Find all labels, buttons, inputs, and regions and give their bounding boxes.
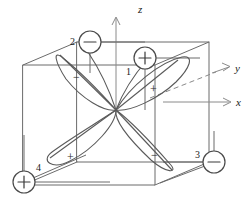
node-2-index-label: 2 (70, 36, 75, 47)
bond-node3-diagonal (160, 166, 205, 183)
diagram-canvas: z y x 1 2 3 4 + − − + (0, 0, 249, 203)
orbital-diagram-figure: z y x 1 2 3 4 + − − + (0, 0, 249, 203)
y-axis-arrowhead (222, 63, 230, 71)
node-3-index-label: 3 (195, 149, 200, 160)
lobe-inner-upper-left (88, 52, 116, 110)
node-1[interactable] (134, 47, 156, 69)
axis-group (112, 17, 231, 110)
axis-label-y: y (234, 62, 240, 74)
axis-label-x: x (235, 96, 241, 108)
axis-label-z: z (137, 3, 143, 15)
lobe-spine-lower-left (50, 110, 116, 158)
node-4[interactable] (13, 171, 35, 193)
lobe-sign-lower-left: + (67, 150, 74, 164)
lobe-sign-upper-left: − (73, 70, 80, 84)
node-1-index-label: 1 (126, 66, 131, 77)
cube-edge-top-right (155, 42, 209, 65)
lobe-sign-upper-right: + (150, 82, 157, 96)
lobe-sign-lower-right: − (151, 148, 158, 162)
node-4-index-label: 4 (36, 162, 41, 173)
cube-edge-top-left (23, 42, 77, 65)
node-3[interactable] (203, 151, 225, 173)
y-axis-tip (212, 67, 229, 73)
node-2[interactable] (79, 31, 101, 53)
lobe-spine-lower-right (116, 110, 172, 170)
